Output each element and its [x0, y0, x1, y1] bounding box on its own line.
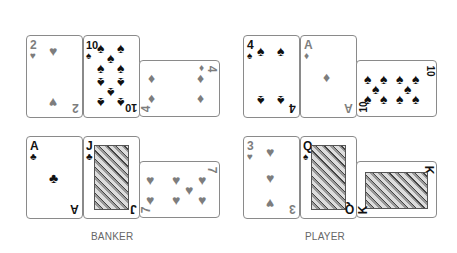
- diamond-icon: ♦: [148, 91, 155, 105]
- spade-icon: ♠: [97, 96, 104, 110]
- heart-icon: ♥: [266, 197, 274, 211]
- spade-icon: ♠: [117, 76, 124, 90]
- player-card-4-spades: 4 ♠ ♠ ♠ ♠ ♠ 4: [243, 35, 300, 118]
- banker-card-10-spades: 10 ♠ ♠ ♠ ♠ ♠ ♠ ♠ ♠ ♠ ♠ ♠ 10: [83, 35, 140, 118]
- heart-icon: ♥: [185, 183, 193, 197]
- spade-icon: ♠: [107, 51, 114, 65]
- heart-icon: ♥: [49, 44, 57, 58]
- diamond-icon: ♦: [197, 91, 204, 105]
- spade-icon: ♠: [372, 82, 379, 96]
- spade-icon: ♠: [404, 82, 411, 96]
- spade-icon: ♠: [257, 94, 264, 108]
- spade-icon: ♠: [97, 41, 104, 55]
- spade-icon: ♠: [117, 96, 124, 110]
- heart-icon: ♥: [49, 96, 57, 110]
- diamond-icon: ♦: [197, 71, 204, 85]
- spade-icon: ♠: [97, 61, 104, 75]
- player-card-10-spades: 10 ♠ ♠ ♠ ♠ ♠ ♠ ♠ ♠ ♠ ♠ 10: [356, 60, 437, 117]
- spade-icon: ♠: [97, 76, 104, 90]
- king-face-artwork: [365, 172, 428, 209]
- banker-card-2-hearts: 2 ♥ ♥ ♥ 2: [26, 35, 83, 118]
- spade-icon: ♠: [412, 92, 419, 106]
- banker-card-jack-clubs: J ♣ J: [83, 136, 140, 219]
- heart-icon: ♥: [172, 173, 180, 187]
- player-card-king-spades: K K: [356, 161, 437, 218]
- jack-face-artwork: [94, 145, 129, 210]
- banker-label: BANKER: [91, 231, 133, 242]
- spade-icon: ♠: [380, 92, 387, 106]
- banker-card-4-diamonds: 4 ♦ ♦ ♦ ♦ ♦ 4: [139, 60, 220, 117]
- spade-icon: ♠: [107, 86, 114, 100]
- heart-icon: ♥: [146, 193, 154, 207]
- heart-icon: ♥: [146, 173, 154, 187]
- player-label: PLAYER: [305, 231, 345, 242]
- heart-icon: ♥: [266, 171, 274, 185]
- club-icon: ♣: [49, 171, 58, 185]
- heart-icon: ♥: [198, 193, 206, 207]
- spade-icon: ♠: [364, 72, 371, 86]
- banker-card-7-hearts: 7 ♥ ♥ ♥ ♥ ♥ ♥ ♥ 7: [139, 161, 220, 218]
- diamond-icon: ♦: [148, 71, 155, 85]
- banker-card-ace-clubs: A ♣ ♣ A: [26, 136, 83, 219]
- player-card-queen-spades: Q ♠ Q: [300, 136, 357, 219]
- heart-icon: ♥: [172, 193, 180, 207]
- spade-icon: ♠: [396, 92, 403, 106]
- spade-icon: ♠: [277, 44, 284, 58]
- player-card-3-hearts: 3 ♥ ♥ ♥ ♥ 3: [243, 136, 300, 219]
- diamond-icon: ♦: [323, 70, 330, 84]
- spade-icon: ♠: [396, 72, 403, 86]
- spade-icon: ♠: [117, 41, 124, 55]
- queen-face-artwork: [311, 145, 346, 210]
- heart-icon: ♥: [198, 173, 206, 187]
- spade-icon: ♠: [117, 61, 124, 75]
- player-card-ace-diamonds: A ♦ ♦ A: [300, 35, 357, 118]
- spade-icon: ♠: [412, 72, 419, 86]
- spade-icon: ♠: [257, 44, 264, 58]
- heart-icon: ♥: [266, 145, 274, 159]
- spade-icon: ♠: [380, 72, 387, 86]
- spade-icon: ♠: [277, 94, 284, 108]
